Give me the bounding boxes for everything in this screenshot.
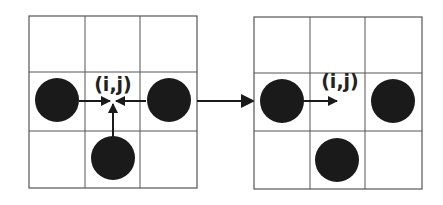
cell-label: (i,j): [321, 70, 359, 92]
before-grid: (i,j): [29, 16, 197, 188]
disc-right: [371, 79, 415, 123]
diagram-canvas: (i,j) (i,j): [0, 0, 443, 205]
disc-left: [260, 79, 304, 123]
disc-bottom: [91, 136, 135, 180]
disc-right: [147, 78, 191, 122]
cell-label: (i,j): [94, 73, 132, 95]
disc-bottom: [315, 138, 359, 182]
after-grid: (i,j): [254, 17, 422, 189]
disc-left: [35, 78, 79, 122]
